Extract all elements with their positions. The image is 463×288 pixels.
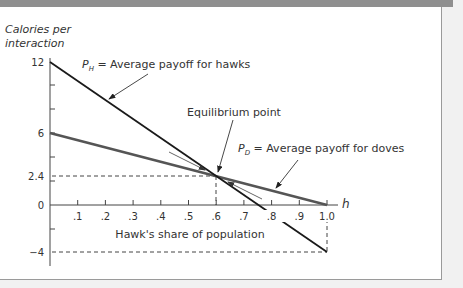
x-axis-symbol: h bbox=[342, 197, 350, 211]
hawks-callout-arrow bbox=[109, 74, 148, 99]
svg-text:.2: .2 bbox=[101, 211, 111, 222]
svg-text:.6: .6 bbox=[211, 211, 221, 222]
y-tick-6: 6 bbox=[38, 128, 44, 139]
y-axis bbox=[50, 58, 55, 266]
svg-text:1.0: 1.0 bbox=[319, 211, 335, 222]
svg-text:.3: .3 bbox=[128, 211, 138, 222]
doves-callout-arrow bbox=[276, 160, 298, 188]
y-tick-0: 0 bbox=[38, 200, 44, 211]
x-axis bbox=[50, 200, 338, 205]
svg-text:.8: .8 bbox=[267, 211, 277, 222]
y-tick-2-4: 2.4 bbox=[28, 171, 44, 182]
x-axis-label: Hawk's share of population bbox=[115, 228, 264, 241]
hawks-payoff-line bbox=[50, 62, 327, 252]
y-tick-12: 12 bbox=[31, 57, 44, 68]
hawk-dove-chart: Calories per interaction 12 6 2.4 0 −4 .… bbox=[0, 0, 463, 288]
svg-text:.9: .9 bbox=[295, 211, 305, 222]
svg-text:.1: .1 bbox=[73, 211, 83, 222]
y-tick-neg4: −4 bbox=[29, 247, 44, 258]
svg-text:.5: .5 bbox=[184, 211, 194, 222]
y-axis-label-line2: interaction bbox=[5, 37, 65, 50]
equilibrium-label: Equilibrium point bbox=[187, 106, 282, 119]
svg-text:.4: .4 bbox=[156, 211, 166, 222]
y-axis-label-line1: Calories per bbox=[5, 23, 73, 36]
x-tick-labels: .1 .2 .3 .4 .5 .6 .7 .8 .9 1.0 bbox=[68, 210, 336, 222]
hawks-label: PH = Average payoff for hawks bbox=[82, 58, 251, 73]
doves-label: PD = Average payoff for doves bbox=[238, 142, 405, 157]
svg-text:.7: .7 bbox=[239, 211, 249, 222]
equilibrium-callout-arrow bbox=[218, 120, 233, 172]
